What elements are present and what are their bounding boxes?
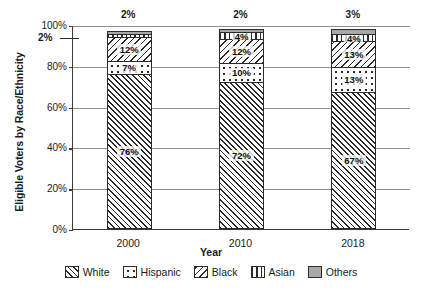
- segment-value-label: 72%: [232, 151, 251, 161]
- legend-label: Asian: [269, 267, 295, 278]
- y-axis-tick-mark: [69, 148, 73, 149]
- y-axis-tick-mark: [69, 67, 73, 68]
- segment-white-2010[interactable]: 72%: [219, 82, 264, 229]
- segment-value-label: 76%: [120, 147, 139, 157]
- segment-value-label: 10%: [232, 68, 251, 78]
- bar-2000[interactable]: 12%7%76%: [107, 33, 152, 229]
- y-axis-tick-mark: [69, 230, 73, 231]
- others-value-label-2000: 2%: [98, 10, 158, 20]
- y-axis-tick-mark: [69, 26, 73, 27]
- segment-value-label: 7%: [122, 63, 136, 73]
- legend-swatch-others-icon: [308, 266, 322, 278]
- segment-value-label: 67%: [344, 156, 363, 166]
- y-axis-tick-label: 40%: [33, 143, 67, 153]
- segment-black-2010[interactable]: 12%: [219, 39, 264, 63]
- plot-area: 0%20%40%60%80%100% 12%7%76%4%12%10%72%4%…: [72, 26, 409, 230]
- asian-callout-label: 2%: [38, 33, 52, 43]
- y-axis-tick-label: 0%: [33, 225, 67, 235]
- stacked-bar-chart: Eligible Voters by Race/Ethnicity 0%20%4…: [0, 0, 422, 294]
- bar-2018[interactable]: 4%13%13%67%: [331, 31, 376, 230]
- chart-legend: WhiteHispanicBlackAsianOthers: [0, 266, 422, 278]
- y-axis-tick-label: 100%: [33, 21, 67, 31]
- y-axis-tick-label: 60%: [33, 103, 67, 113]
- segment-black-2000[interactable]: 12%: [107, 37, 152, 61]
- legend-label: Black: [212, 267, 238, 278]
- legend-label: Others: [326, 267, 358, 278]
- segment-value-label: 13%: [344, 50, 363, 60]
- segment-value-label: 12%: [232, 47, 251, 57]
- gridline: [73, 26, 410, 27]
- bar-2010[interactable]: 4%12%10%72%: [219, 31, 264, 230]
- y-axis-tick-label: 80%: [33, 62, 67, 72]
- segment-hispanic-2000[interactable]: 7%: [107, 61, 152, 75]
- segment-hispanic-2010[interactable]: 10%: [219, 63, 264, 83]
- legend-item-hispanic[interactable]: Hispanic: [123, 266, 181, 278]
- asian-callout-leader-line: [60, 38, 79, 39]
- legend-item-asian[interactable]: Asian: [251, 266, 295, 278]
- y-axis-title: Eligible Voters by Race/Ethnicity: [13, 27, 25, 237]
- segment-hispanic-2018[interactable]: 13%: [331, 67, 376, 94]
- others-value-label-2018: 3%: [323, 10, 383, 20]
- y-axis-tick-label: 20%: [33, 184, 67, 194]
- legend-item-black[interactable]: Black: [194, 266, 238, 278]
- legend-swatch-white-icon: [65, 266, 79, 278]
- legend-label: White: [83, 267, 110, 278]
- legend-item-others[interactable]: Others: [308, 266, 358, 278]
- segment-white-2018[interactable]: 67%: [331, 92, 376, 229]
- y-axis-tick-mark: [69, 189, 73, 190]
- segment-white-2000[interactable]: 76%: [107, 74, 152, 229]
- segment-value-label: 12%: [120, 45, 139, 55]
- x-axis-title: Year: [0, 247, 422, 258]
- segment-black-2018[interactable]: 13%: [331, 41, 376, 68]
- legend-label: Hispanic: [141, 267, 181, 278]
- legend-item-white[interactable]: White: [65, 266, 110, 278]
- legend-swatch-asian-icon: [251, 266, 265, 278]
- others-value-label-2010: 2%: [211, 10, 271, 20]
- segment-value-label: 4%: [235, 32, 249, 40]
- legend-swatch-black-icon: [194, 266, 208, 278]
- legend-swatch-hispanic-icon: [123, 266, 137, 278]
- segment-value-label: 13%: [344, 75, 363, 85]
- segment-value-label: 4%: [347, 34, 361, 42]
- y-axis-tick-mark: [69, 108, 73, 109]
